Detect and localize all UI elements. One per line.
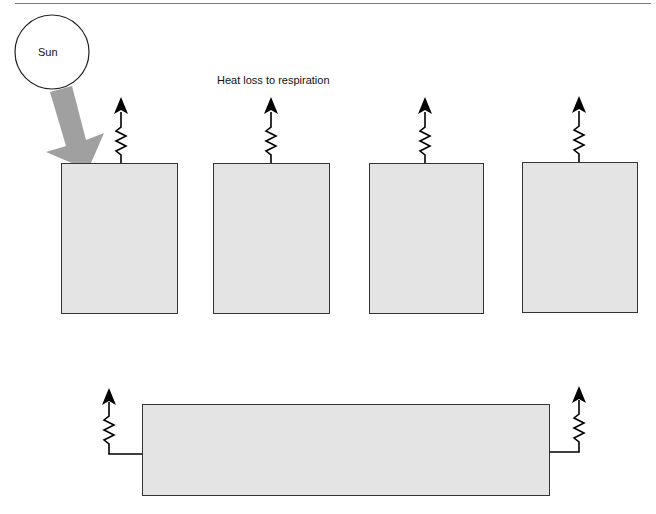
sun-energy-arrow-icon [46, 86, 104, 170]
heat-arrow-icon [549, 400, 584, 452]
heat-arrow-icon [266, 112, 276, 163]
heat-arrow-icon [574, 111, 584, 162]
heat-arrow-icon [420, 112, 430, 163]
heat-arrow-icon [116, 112, 126, 163]
trophic-box-1 [61, 163, 178, 314]
arrowhead-icon [114, 97, 128, 114]
heat-arrow-icon [104, 402, 142, 454]
arrowhead-icon [264, 97, 278, 114]
trophic-box-3 [369, 163, 484, 314]
arrowhead-icon [572, 96, 586, 113]
sun-label: Sun [38, 46, 58, 58]
decomposer-box [142, 404, 550, 496]
heat-loss-label: Heat loss to respiration [217, 74, 330, 86]
trophic-box-4 [522, 162, 638, 313]
trophic-box-2 [213, 163, 330, 314]
arrowhead-icon [418, 97, 432, 114]
